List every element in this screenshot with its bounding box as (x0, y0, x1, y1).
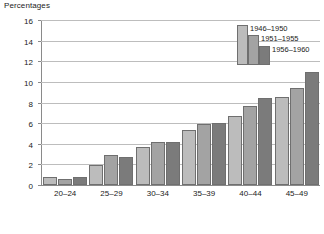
bar-group-20-24 (42, 20, 88, 185)
plot-area: 1946–1950 1951–1955 1956–1960 (41, 20, 320, 186)
bar-1946-1950-40-44 (228, 116, 242, 185)
y-tick-mark-14 (38, 41, 41, 42)
legend-item-2: 1956–1960 (259, 46, 310, 65)
bar-1956-1960-25-29 (119, 157, 133, 185)
bar-group-25-29 (88, 20, 134, 185)
bar-1946-1950-20-24 (43, 177, 57, 185)
x-tick-label-30-34: 30–34 (135, 189, 181, 209)
bar-1956-1960-20-24 (73, 177, 87, 185)
bar-1946-1950-25-29 (89, 165, 103, 185)
bar-1946-1950-35-39 (182, 130, 196, 185)
y-axis-tick-labels: 1614121086420 (0, 20, 38, 186)
y-tick-label-14: 14 (24, 37, 33, 46)
bar-1951-1955-30-34 (151, 142, 165, 185)
x-tick-label-25-29: 25–29 (88, 189, 134, 209)
bar-1956-1960-45-49 (305, 72, 319, 185)
bar-group-30-34 (135, 20, 181, 185)
bar-1951-1955-40-44 (243, 106, 257, 185)
bar-1956-1960-35-39 (212, 123, 226, 185)
bar-1951-1955-35-39 (197, 124, 211, 185)
y-tick-label-12: 12 (24, 58, 33, 67)
y-tick-mark-16 (38, 20, 41, 21)
y-tick-mark-2 (38, 164, 41, 165)
x-tick-label-35-39: 35–39 (181, 189, 227, 209)
x-tick-label-45-49: 45–49 (274, 189, 320, 209)
y-tick-label-8: 8 (29, 99, 33, 108)
legend-swatch-icon-1 (248, 35, 259, 65)
bar-1951-1955-25-29 (104, 155, 118, 185)
x-axis-tick-labels: 20–2425–2930–3435–3940–4445–49 (42, 189, 320, 209)
x-tick-label-20-24: 20–24 (42, 189, 88, 209)
x-tick-label-40-44: 40–44 (227, 189, 273, 209)
y-tick-mark-10 (38, 82, 41, 83)
legend-label-1: 1951–1955 (261, 35, 299, 43)
legend-swatch-icon-0 (237, 25, 248, 65)
y-tick-label-2: 2 (29, 161, 33, 170)
bar-1946-1950-30-34 (136, 147, 150, 185)
bar-1951-1955-20-24 (58, 179, 72, 185)
y-tick-mark-0 (38, 185, 41, 186)
legend: 1946–1950 1951–1955 1956–1960 (237, 25, 320, 65)
y-tick-label-0: 0 (29, 182, 33, 191)
bar-1956-1960-30-34 (166, 142, 180, 185)
y-tick-label-6: 6 (29, 120, 33, 129)
y-tick-label-4: 4 (29, 140, 33, 149)
bar-1951-1955-45-49 (290, 88, 304, 185)
x-axis-line (41, 185, 320, 186)
y-tick-mark-12 (38, 61, 41, 62)
bar-group-35-39 (181, 20, 227, 185)
legend-swatch-icon-2 (259, 46, 270, 65)
legend-label-2: 1956–1960 (272, 46, 310, 54)
legend-label-0: 1946–1950 (250, 25, 288, 33)
y-tick-mark-6 (38, 123, 41, 124)
bar-1946-1950-45-49 (275, 97, 289, 185)
chart-title: Percentages (4, 1, 50, 10)
y-tick-mark-4 (38, 144, 41, 145)
y-tick-label-16: 16 (24, 17, 33, 26)
y-tick-mark-8 (38, 103, 41, 104)
bar-chart: Percentages 1614121086420 1946–1950 1951… (0, 0, 324, 234)
y-tick-label-10: 10 (24, 78, 33, 87)
bar-1956-1960-40-44 (258, 98, 272, 185)
